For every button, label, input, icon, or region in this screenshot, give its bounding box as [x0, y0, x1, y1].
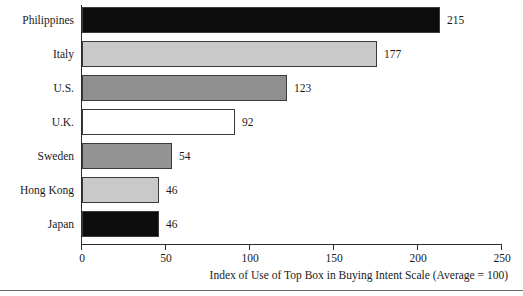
bar-us — [82, 75, 287, 101]
category-label: Japan — [0, 209, 74, 239]
x-tick — [81, 244, 82, 250]
category-label: Italy — [0, 39, 74, 69]
bar-row: Sweden 54 — [0, 141, 523, 171]
x-tick-label: 50 — [160, 252, 172, 264]
bar-row: U.K. 92 — [0, 107, 523, 137]
x-tick — [249, 244, 250, 250]
x-axis-caption: Index of Use of Top Box in Buying Intent… — [0, 269, 508, 281]
x-tick-label: 0 — [79, 252, 85, 264]
bar-row: Hong Kong 46 — [0, 175, 523, 205]
bar-uk — [82, 109, 235, 135]
category-label: U.K. — [0, 107, 74, 137]
bar-value-label: 215 — [447, 5, 464, 35]
category-label: Philippines — [0, 5, 74, 35]
bar-row: Italy 177 — [0, 39, 523, 69]
bar-value-label: 123 — [294, 73, 311, 103]
x-tick — [333, 244, 334, 250]
category-label: Sweden — [0, 141, 74, 171]
bottom-divider — [0, 290, 523, 291]
bar-italy — [82, 41, 377, 67]
x-tick — [501, 244, 502, 250]
bar-japan — [82, 211, 159, 237]
plot-area: Philippines 215 Italy 177 U.S. 123 U.K. … — [0, 0, 523, 296]
bar-value-label: 54 — [179, 141, 191, 171]
x-tick-label: 250 — [493, 252, 510, 264]
bar-hong-kong — [82, 177, 159, 203]
bar-chart-figure: Philippines 215 Italy 177 U.S. 123 U.K. … — [0, 0, 523, 296]
bar-value-label: 177 — [384, 39, 401, 69]
x-tick-label: 200 — [409, 252, 426, 264]
x-tick — [417, 244, 418, 250]
bar-value-label: 92 — [242, 107, 254, 137]
bar-sweden — [82, 143, 172, 169]
bar-row: Philippines 215 — [0, 5, 523, 35]
x-axis-line — [81, 244, 502, 245]
x-tick — [165, 244, 166, 250]
category-label: U.S. — [0, 73, 74, 103]
bar-value-label: 46 — [166, 175, 178, 205]
x-tick-label: 150 — [325, 252, 342, 264]
x-tick-label: 100 — [241, 252, 258, 264]
bar-value-label: 46 — [166, 209, 178, 239]
bar-philippines — [82, 7, 440, 33]
category-label: Hong Kong — [0, 175, 74, 205]
bar-row: U.S. 123 — [0, 73, 523, 103]
bar-row: Japan 46 — [0, 209, 523, 239]
